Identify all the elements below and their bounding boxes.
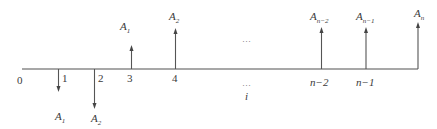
arrow-down-icon — [93, 103, 97, 109]
inflow-arrow-3 — [130, 45, 134, 69]
arrow-up-icon — [174, 28, 178, 34]
inflow-label-4: A2 — [168, 10, 180, 25]
inflow-arrow-4 — [174, 28, 178, 69]
arrow-down-icon — [57, 86, 61, 92]
arrow-up-icon — [416, 22, 420, 28]
outflow-arrow-1 — [57, 69, 61, 92]
inflow-arrow-n-minus-2 — [320, 27, 324, 69]
arrow-up-icon — [320, 27, 324, 33]
arrow-up-icon — [130, 45, 134, 51]
tick-label-i: i — [245, 90, 248, 102]
inflow-arrow-n-minus-1 — [364, 27, 368, 69]
tick-label-3: 3 — [127, 72, 133, 84]
outflow-arrow-2 — [93, 69, 97, 109]
ellipsis-top: … — [242, 34, 251, 44]
arrow-up-icon — [364, 27, 368, 33]
inflow-label-n-minus-2: An−2 — [309, 10, 329, 25]
inflow-label-3: A1 — [119, 20, 130, 35]
outflow-label-2: A2 — [90, 112, 102, 127]
tick-label-n-minus-2: n−2 — [310, 76, 329, 88]
tick-label-2: 2 — [98, 72, 104, 84]
tick-label-1: 1 — [62, 72, 68, 84]
tick-label-n-minus-1: n−1 — [356, 76, 374, 88]
cash-flow-diagram: 0 1 2 3 4 … i n−2 n−1 A1 A2 A — [0, 0, 437, 129]
tick-label-0: 0 — [17, 74, 23, 86]
tick-label-4: 4 — [172, 72, 178, 84]
inflow-label-n: An — [413, 7, 425, 22]
inflow-label-n-minus-1: An−1 — [355, 10, 374, 25]
inflow-arrow-n — [416, 22, 420, 69]
outflow-label-1: A1 — [54, 110, 65, 125]
ellipsis-bottom: … — [242, 78, 251, 88]
